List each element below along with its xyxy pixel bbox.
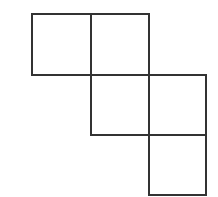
square-cell	[148, 74, 207, 136]
square-cell	[90, 13, 150, 76]
staircase-net-diagram	[0, 0, 218, 197]
square-cell	[148, 134, 207, 196]
square-cell	[31, 13, 92, 76]
square-cell	[90, 74, 150, 136]
